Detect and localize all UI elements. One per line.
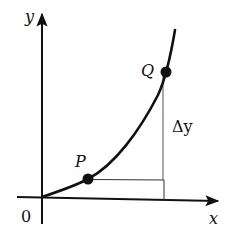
origin-label: 0 bbox=[21, 209, 31, 225]
point-p bbox=[83, 174, 94, 185]
y-axis-label: y bbox=[25, 9, 34, 25]
x-axis bbox=[17, 197, 218, 201]
increment-diagram bbox=[0, 0, 229, 248]
point-q bbox=[161, 67, 172, 78]
delta-x-segment bbox=[92, 180, 164, 181]
delta-y-label: Δy bbox=[172, 119, 193, 135]
point-p-label: P bbox=[75, 154, 86, 170]
x-axis-label: x bbox=[209, 211, 218, 227]
function-curve bbox=[42, 30, 175, 197]
point-q-label: Q bbox=[141, 63, 154, 79]
